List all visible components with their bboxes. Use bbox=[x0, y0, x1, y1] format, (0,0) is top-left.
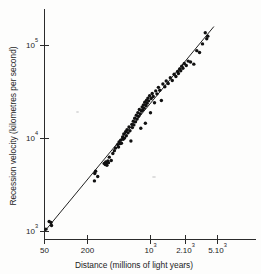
y-tick-label-1e3: 103 bbox=[26, 223, 38, 236]
data-point bbox=[50, 224, 53, 227]
data-point bbox=[147, 99, 150, 102]
y-tick-label-1e4-exp: 4 bbox=[35, 130, 38, 136]
data-point bbox=[204, 31, 207, 34]
data-point bbox=[185, 64, 188, 67]
paper-speck bbox=[152, 176, 156, 178]
data-point bbox=[110, 159, 113, 162]
y-tick-label-1e4: 104 bbox=[26, 130, 38, 143]
data-point bbox=[117, 145, 120, 148]
data-point bbox=[128, 129, 131, 132]
data-point bbox=[108, 155, 111, 158]
x-tick-label-200-base: 200 bbox=[81, 246, 95, 255]
x-axis-title: Distance (millions of light years) bbox=[75, 260, 193, 270]
data-point bbox=[177, 72, 180, 75]
data-point bbox=[114, 146, 117, 149]
data-point bbox=[132, 123, 135, 126]
data-point bbox=[149, 111, 152, 114]
data-point bbox=[93, 179, 96, 182]
data-point bbox=[206, 34, 209, 37]
data-point bbox=[181, 67, 184, 70]
data-point bbox=[152, 95, 155, 98]
data-point bbox=[169, 76, 172, 79]
data-point bbox=[155, 92, 158, 95]
data-point bbox=[107, 161, 110, 164]
data-point bbox=[174, 75, 177, 78]
x-tick-label-50-base: 50 bbox=[40, 246, 49, 255]
hubble-diagram-figure: 105 104 103 50 200 103 2.103 5 bbox=[0, 0, 261, 274]
x-tick-label-50: 50 bbox=[40, 246, 49, 255]
data-point bbox=[198, 51, 201, 54]
y-axis-title: Recession velocity (kilometres per secon… bbox=[8, 46, 18, 205]
data-point bbox=[201, 42, 204, 45]
x-tick-label-5e3-base: 5.10 bbox=[208, 246, 224, 255]
y-tick-labels-group: 105 104 103 bbox=[26, 37, 38, 236]
y-tick-label-1e5-exp: 5 bbox=[35, 37, 38, 43]
data-point bbox=[129, 139, 132, 142]
data-point bbox=[189, 60, 192, 63]
data-points-layer bbox=[44, 31, 209, 231]
axes-group bbox=[45, 9, 257, 240]
x-tick-label-2e3-exp: 3 bbox=[192, 242, 195, 248]
x-tick-labels-group: 50 200 103 2.103 5.103 bbox=[40, 242, 227, 255]
data-point bbox=[160, 99, 163, 102]
data-point bbox=[49, 221, 52, 224]
y-tick-label-1e5: 105 bbox=[26, 37, 38, 50]
data-point bbox=[195, 49, 198, 52]
paper-speck bbox=[76, 111, 79, 113]
data-point bbox=[94, 170, 97, 173]
data-point bbox=[153, 101, 156, 104]
x-tick-label-5e3-exp: 3 bbox=[224, 242, 227, 248]
data-point bbox=[167, 82, 170, 85]
data-point bbox=[96, 175, 99, 178]
data-point bbox=[171, 79, 174, 82]
data-point bbox=[151, 92, 154, 95]
data-point bbox=[192, 62, 195, 65]
x-tick-label-2e3-base: 2.10 bbox=[176, 246, 192, 255]
data-point bbox=[144, 122, 147, 125]
data-point bbox=[157, 86, 160, 89]
x-tick-label-200: 200 bbox=[81, 246, 95, 255]
data-point bbox=[154, 89, 157, 92]
x-tick-label-1e3-exp: 3 bbox=[153, 242, 156, 248]
data-point bbox=[163, 85, 166, 88]
data-point bbox=[125, 134, 128, 137]
data-point bbox=[158, 89, 161, 92]
data-point bbox=[120, 142, 123, 145]
data-point bbox=[44, 227, 47, 230]
plot-canvas: 105 104 103 50 200 103 2.103 5 bbox=[0, 0, 261, 274]
data-point bbox=[127, 125, 130, 128]
data-point bbox=[125, 128, 128, 131]
data-point bbox=[139, 127, 142, 130]
hubble-fit-line bbox=[45, 27, 214, 232]
fit-line-layer bbox=[45, 27, 214, 232]
y-tick-label-1e3-exp: 3 bbox=[35, 223, 38, 229]
